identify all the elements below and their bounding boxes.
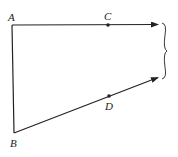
- label-c: C: [104, 11, 111, 22]
- label-a: A: [8, 12, 15, 23]
- label-d: D: [105, 101, 113, 112]
- ray-bd: [14, 78, 158, 134]
- brace-icon: [162, 23, 167, 79]
- segment-ab: [12, 25, 14, 133]
- diagram-svg: [0, 0, 178, 157]
- geometry-diagram: A C D B: [0, 0, 178, 157]
- point-d-dot: [107, 94, 111, 98]
- point-c-dot: [106, 23, 110, 27]
- ray-ac: [12, 25, 158, 26]
- label-b: B: [10, 138, 17, 149]
